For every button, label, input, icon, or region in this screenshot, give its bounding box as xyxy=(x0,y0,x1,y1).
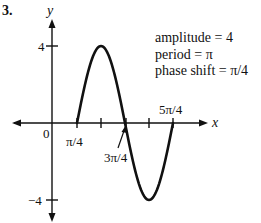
period-text: period = π xyxy=(155,47,248,64)
phase-shift-text: phase shift = π/4 xyxy=(155,63,248,80)
amplitude-text: amplitude = 4 xyxy=(155,30,248,47)
problem-number: 3. xyxy=(2,4,13,17)
y-axis-down-arrow-icon xyxy=(49,213,56,222)
x-axis-right-arrow-icon xyxy=(199,120,208,127)
x-tick-label-5pi4: 5π/4 xyxy=(159,103,182,116)
annotation-block: amplitude = 4 period = π phase shift = π… xyxy=(155,30,248,80)
x-axis-label: x xyxy=(212,116,218,129)
y-axis-label: y xyxy=(47,4,53,17)
origin-label: 0 xyxy=(43,127,50,140)
x-axis-left-arrow-icon xyxy=(12,120,21,127)
x-tick-label-pi4: π/4 xyxy=(66,135,83,148)
y-axis-up-arrow-icon xyxy=(49,19,56,28)
x-tick-label-3pi4: 3π/4 xyxy=(104,151,127,164)
y-tick-label-4: 4 xyxy=(38,40,45,53)
y-tick-label-neg4: −4 xyxy=(28,194,42,207)
